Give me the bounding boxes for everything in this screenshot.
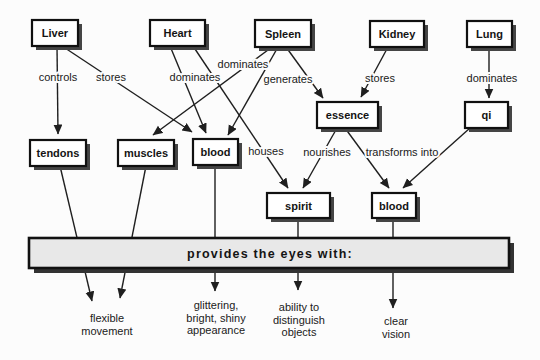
edge-label-controls-0: controls [39, 71, 78, 83]
edge-liver-controls-tendons [57, 46, 58, 134]
caption-glittering-shiny-line-1: glittering, [194, 299, 239, 311]
node-qi: qi [465, 102, 512, 132]
node-tendons: tendons [30, 140, 90, 170]
caption-distinguish-objects: ability todistinguishobjects [273, 301, 325, 338]
node-tendons-label: tendons [37, 147, 80, 159]
caption-distinguish-objects-line-1: ability to [279, 301, 319, 313]
node-spirit: spirit [267, 193, 334, 222]
eyes-bar: provides the eyes with: [29, 238, 514, 273]
node-liver: Liver [32, 20, 82, 50]
diagram-svg: controlsstoresdominatesdominatesgenerate… [0, 0, 540, 360]
node-lung: Lung [467, 21, 516, 51]
edge-label-dominates-3: dominates [218, 58, 269, 70]
caption-flexible-movement-line-2: movement [81, 325, 132, 337]
edge-label-dominates-2: dominates [170, 71, 221, 83]
edge-label-stores-1: stores [96, 71, 126, 83]
edge-label-stores-5: stores [365, 72, 395, 84]
caption-clear-vision-line-2: vision [382, 328, 410, 340]
caption-distinguish-objects-line-2: distinguish [273, 314, 325, 326]
node-kidney-label: Kidney [379, 28, 417, 40]
node-qi-label: qi [482, 109, 492, 121]
caption-glittering-shiny: glittering,bright, shinyappearance [186, 299, 246, 336]
edge-label-transforms-into-9: transforms into [366, 146, 439, 158]
node-kidney: Kidney [370, 21, 428, 51]
node-blood-2-label: blood [379, 200, 409, 212]
edge-tendons-to-eyes [60, 166, 92, 301]
edge-liver-stores-blood [62, 46, 192, 132]
caption-clear-vision: clearvision [382, 315, 410, 340]
edge-muscles-to-eyes [120, 166, 146, 298]
node-muscles-label: muscles [124, 147, 168, 159]
node-heart-label: Heart [163, 27, 191, 39]
edge-heart-dominates-blood [170, 46, 206, 133]
node-blood-1: blood [193, 139, 242, 169]
edge-label-dominates-6: dominates [467, 72, 518, 84]
node-muscles: muscles [118, 140, 178, 170]
edge-essence-nourishes-spirit [303, 128, 337, 188]
caption-glittering-shiny-line-2: bright, shiny [186, 312, 246, 324]
eyes-bar-label: provides the eyes with: [187, 247, 353, 261]
edge-label-houses-7: houses [248, 145, 284, 157]
caption-clear-vision-line-1: clear [384, 315, 408, 327]
node-essence-label: essence [326, 109, 369, 121]
node-blood-1-label: blood [201, 146, 231, 158]
node-spirit-label: spirit [285, 200, 312, 212]
edge-essence-transforms-blood [345, 128, 389, 188]
edge-qi-transforms-blood [403, 128, 470, 188]
node-blood-2: blood [372, 193, 420, 222]
node-spleen: Spleen [255, 20, 315, 51]
node-spleen-label: Spleen [265, 28, 301, 40]
caption-flexible-movement: flexiblemovement [81, 312, 132, 337]
caption-distinguish-objects-line-3: objects [282, 326, 317, 338]
node-lung-label: Lung [476, 28, 503, 40]
node-essence: essence [317, 102, 382, 132]
edge-label-generates-4: generates [264, 73, 313, 85]
tcm-eye-diagram: controlsstoresdominatesdominatesgenerate… [0, 0, 540, 360]
node-liver-label: Liver [42, 27, 69, 39]
edge-label-nourishes-8: nourishes [303, 146, 351, 158]
node-heart: Heart [150, 20, 209, 50]
caption-flexible-movement-line-1: flexible [90, 312, 124, 324]
caption-glittering-shiny-line-3: appearance [187, 324, 245, 336]
